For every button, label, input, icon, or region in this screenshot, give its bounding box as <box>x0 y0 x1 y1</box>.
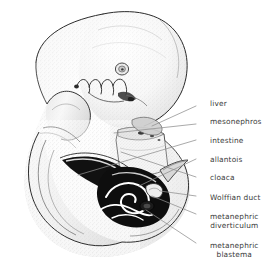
label-text-intestine: intestine <box>210 136 244 145</box>
label-text-cloaca: cloaca <box>210 173 235 182</box>
label-text-allantois: allantois <box>210 155 243 164</box>
label-text-liver: liver <box>210 99 227 108</box>
label-intestine: intestine <box>210 136 244 145</box>
label-metanephric-diverticulum: metanephricdiverticulum <box>210 212 259 230</box>
label-liver: liver <box>210 99 227 108</box>
label-cloaca: cloaca <box>210 173 235 182</box>
label-text2-metanephric-diverticulum: diverticulum <box>210 221 259 230</box>
otic-vesicle-icon <box>115 63 128 75</box>
label-text-metanephric-blastema: metanephric <box>210 241 259 250</box>
label-text-metanephric-diverticulum: metanephric <box>210 212 259 221</box>
label-mesonephros: mesonephros <box>210 117 262 126</box>
label-metanephric-blastema: metanephricblastema <box>210 241 259 259</box>
embryo-figure: livermesonephrosintestineallantoiscloaca… <box>0 0 274 272</box>
label-text-mesonephros: mesonephros <box>210 117 262 126</box>
metanephric-blastema-structure <box>140 201 154 211</box>
label-wolffian-duct: Wolffian duct <box>210 193 261 202</box>
label-text-wolffian-duct: Wolffian duct <box>210 193 261 202</box>
label-text2-metanephric-blastema: blastema <box>210 250 259 259</box>
label-allantois: allantois <box>210 155 243 164</box>
